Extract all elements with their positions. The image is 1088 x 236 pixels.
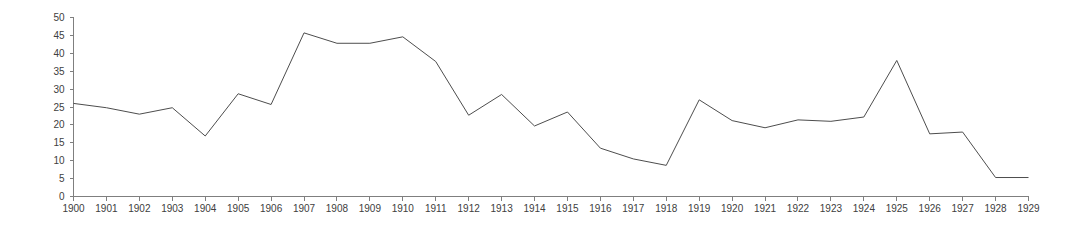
series-line xyxy=(74,33,1029,178)
x-tick-label: 1903 xyxy=(161,203,184,214)
x-tick-label: 1912 xyxy=(458,203,481,214)
x-tick-label: 1901 xyxy=(95,203,118,214)
y-tick-label: 40 xyxy=(53,48,65,59)
x-tick-label: 1906 xyxy=(260,203,283,214)
y-tick-label: 45 xyxy=(53,30,65,41)
x-tick-label: 1915 xyxy=(556,203,579,214)
x-tick-label: 1911 xyxy=(425,203,447,214)
x-tick-label: 1914 xyxy=(523,203,546,214)
x-tick-label: 1900 xyxy=(62,203,85,214)
x-tick-label: 1918 xyxy=(655,203,678,214)
x-tick-label: 1916 xyxy=(589,203,612,214)
x-tick-label: 1913 xyxy=(490,203,513,214)
x-tick-label: 1919 xyxy=(688,203,711,214)
x-tick-label: 1927 xyxy=(952,203,975,214)
x-tick-label: 1926 xyxy=(919,203,942,214)
y-tick-label: 20 xyxy=(53,119,65,130)
x-axis: 1900190119021903190419051906190719081909… xyxy=(62,197,1040,214)
y-tick-label: 0 xyxy=(59,191,65,202)
chart-plot-area: 05101520253035404550 1900190119021903190… xyxy=(0,0,1088,236)
x-tick-label: 1909 xyxy=(359,203,382,214)
line-chart: 05101520253035404550 1900190119021903190… xyxy=(0,0,1088,236)
y-tick-label: 35 xyxy=(53,66,65,77)
y-tick-label: 50 xyxy=(53,12,65,23)
x-tick-label: 1923 xyxy=(820,203,843,214)
x-tick-label: 1904 xyxy=(194,203,217,214)
y-axis: 05101520253035404550 xyxy=(53,12,73,202)
x-tick-label: 1921 xyxy=(754,203,777,214)
y-tick-label: 10 xyxy=(53,155,65,166)
x-tick-label: 1922 xyxy=(787,203,810,214)
y-tick-label: 15 xyxy=(53,137,65,148)
x-tick-label: 1905 xyxy=(227,203,250,214)
x-tick-label: 1928 xyxy=(984,203,1007,214)
x-tick-label: 1920 xyxy=(721,203,744,214)
x-tick-label: 1925 xyxy=(886,203,909,214)
x-tick-label: 1902 xyxy=(128,203,151,214)
data-series xyxy=(74,33,1029,178)
y-tick-label: 5 xyxy=(59,173,65,184)
x-tick-label: 1907 xyxy=(293,203,316,214)
y-tick-label: 30 xyxy=(53,84,65,95)
x-tick-label: 1917 xyxy=(622,203,645,214)
x-tick-label: 1924 xyxy=(853,203,876,214)
x-tick-label: 1908 xyxy=(326,203,349,214)
y-tick-label: 25 xyxy=(53,102,65,113)
x-tick-label: 1910 xyxy=(392,203,415,214)
x-tick-label: 1929 xyxy=(1017,203,1040,214)
